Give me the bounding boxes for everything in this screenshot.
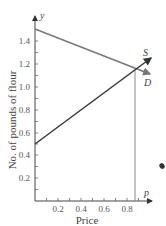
svg-text:0.2: 0.2 [19,173,30,183]
svg-text:1.0: 1.0 [19,82,31,92]
supply-demand-chart: 0.2 0.4 0.6 0.8 1.0 1.2 1.4 0.2 0.4 0.6 … [0,0,166,226]
supply-curve [35,58,151,144]
svg-text:0.8: 0.8 [19,105,31,115]
svg-text:0.8: 0.8 [121,204,133,214]
demand-label: D [143,77,152,88]
svg-text:0.2: 0.2 [52,204,63,214]
x-axis-title: Price [76,214,99,226]
supply-label: S [143,47,148,58]
svg-text:0.6: 0.6 [19,128,31,138]
svg-text:1.2: 1.2 [19,59,30,69]
svg-text:1.4: 1.4 [19,36,31,46]
x-tick-labels: 0.2 0.4 0.6 0.8 [52,204,133,214]
svg-text:0.6: 0.6 [98,204,110,214]
y-axis-symbol: y [39,10,45,21]
svg-text:0.4: 0.4 [75,204,87,214]
x-axis-symbol: p [143,187,149,198]
y-tick-labels: 0.2 0.4 0.6 0.8 1.0 1.2 1.4 [19,36,31,183]
y-axis-title: No. of pounds of flour [6,70,18,169]
demand-curve [35,29,150,74]
svg-text:0.4: 0.4 [19,150,31,160]
scan-artifact [158,162,165,170]
